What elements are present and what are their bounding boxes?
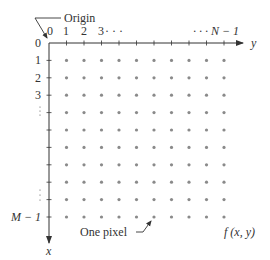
pixel-dot — [187, 215, 190, 218]
pixel-dot — [152, 94, 155, 97]
pixel-dot — [170, 94, 173, 97]
pixel-dot — [100, 146, 103, 149]
pixel-dot — [117, 146, 120, 149]
pixel-dot — [65, 146, 68, 149]
row-label-3: 3 — [35, 88, 41, 102]
pixel-dot — [170, 146, 173, 149]
pixel-dot — [205, 198, 208, 201]
row-label-2: 2 — [35, 71, 41, 85]
pixel-dot — [170, 215, 173, 218]
pixel-dot — [135, 111, 138, 114]
pixel-grid — [65, 59, 226, 219]
pixel-dot — [82, 198, 85, 201]
pixel-dot — [82, 146, 85, 149]
pixel-dot — [117, 215, 120, 218]
col-label-n-minus-1: · · · N − 1 — [193, 24, 239, 38]
pixel-dot — [205, 111, 208, 114]
row-ellipsis-top — [39, 106, 40, 115]
function-label: f (x, y) — [224, 225, 255, 239]
pixel-dot — [117, 181, 120, 184]
x-axis-label: x — [45, 244, 52, 258]
pixel-dot — [117, 94, 120, 97]
pixel-dot — [65, 128, 68, 131]
pixel-dot — [100, 128, 103, 131]
pixel-dot — [135, 215, 138, 218]
pixel-dot — [222, 94, 225, 97]
pixel-dot — [82, 163, 85, 166]
pixel-dot — [152, 128, 155, 131]
y-axis-label: y — [250, 36, 257, 50]
pixel-dot — [187, 76, 190, 79]
pixel-dot — [65, 215, 68, 218]
pixel-dot — [65, 76, 68, 79]
pixel-dot — [205, 128, 208, 131]
pixel-dot — [82, 181, 85, 184]
pixel-dot — [100, 181, 103, 184]
pixel-dot — [170, 198, 173, 201]
pixel-dot — [205, 181, 208, 184]
pixel-dot — [170, 128, 173, 131]
pixel-dot — [100, 163, 103, 166]
pixel-dot — [187, 94, 190, 97]
pixel-dot — [117, 198, 120, 201]
pixel-dot — [82, 76, 85, 79]
pixel-dot — [170, 181, 173, 184]
pixel-dot — [187, 181, 190, 184]
pixel-dot — [135, 94, 138, 97]
pixel-dot — [100, 111, 103, 114]
pixel-dot — [205, 76, 208, 79]
pixel-dot — [170, 163, 173, 166]
pixel-dot — [65, 94, 68, 97]
pixel-dot — [117, 59, 120, 62]
pixel-dot — [65, 163, 68, 166]
pixel-dot — [187, 146, 190, 149]
pixel-dot — [135, 128, 138, 131]
pixel-dot — [65, 59, 68, 62]
pixel-dot — [205, 59, 208, 62]
pixel-dot — [135, 181, 138, 184]
pixel-dot — [222, 163, 225, 166]
pixel-dot — [82, 215, 85, 218]
origin-label: Origin — [64, 11, 95, 25]
pixel-dot — [222, 76, 225, 79]
pixel-dot — [205, 146, 208, 149]
pixel-dot — [135, 146, 138, 149]
pixel-dot — [205, 94, 208, 97]
pixel-dot — [222, 59, 225, 62]
pixel-dot — [222, 215, 225, 218]
pixel-dot — [100, 198, 103, 201]
pixel-dot — [82, 94, 85, 97]
pixel-dot — [152, 181, 155, 184]
pixel-dot — [152, 59, 155, 62]
pixel-dot — [222, 198, 225, 201]
pixel-dot — [152, 76, 155, 79]
pixel-dot — [187, 163, 190, 166]
row-ellipsis-bottom — [39, 189, 40, 200]
pixel-dot — [187, 59, 190, 62]
pixel-dot — [117, 76, 120, 79]
pixel-dot — [187, 111, 190, 114]
pixel-dot — [152, 163, 155, 166]
pixel-dot — [152, 215, 155, 218]
digital-image-coordinate-diagram: Origin 0 1 2 3 · · · · · · N − 1 0 1 2 3… — [0, 0, 270, 260]
pixel-dot — [135, 163, 138, 166]
pixel-dot — [117, 163, 120, 166]
pixel-dot — [152, 111, 155, 114]
pixel-dot — [152, 146, 155, 149]
row-label-1: 1 — [35, 53, 41, 67]
pixel-dot — [152, 198, 155, 201]
pixel-dot — [187, 198, 190, 201]
row-label-m-minus-1: M − 1 — [10, 210, 41, 224]
pixel-dot — [222, 146, 225, 149]
one-pixel-label: One pixel — [80, 225, 128, 239]
pixel-dot — [100, 76, 103, 79]
pixel-dot — [170, 59, 173, 62]
pixel-dot — [65, 111, 68, 114]
col-label-1: 1 — [63, 24, 69, 38]
pixel-dot — [100, 215, 103, 218]
pixel-dot — [82, 111, 85, 114]
col-label-0: 0 — [47, 24, 53, 38]
pixel-dot — [117, 111, 120, 114]
pixel-dot — [135, 198, 138, 201]
pixel-dot — [100, 94, 103, 97]
